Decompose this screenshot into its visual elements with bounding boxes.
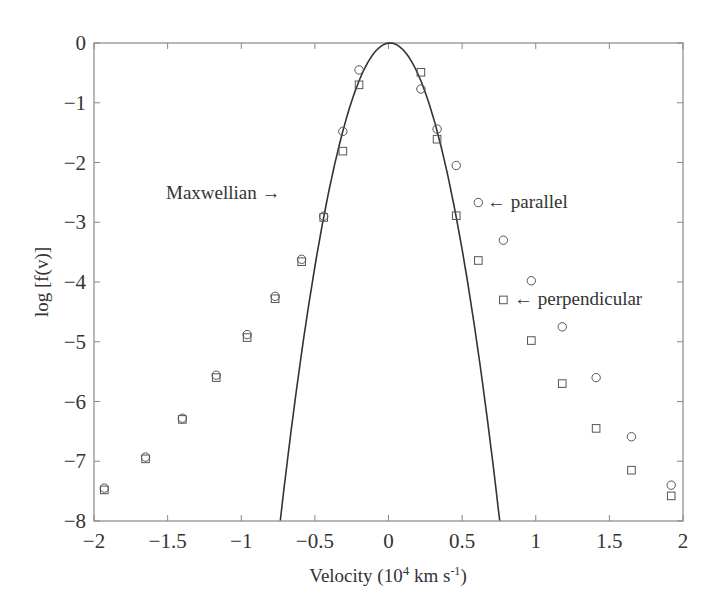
x-tick-label: −2 (83, 529, 105, 553)
x-tick-label: 0.5 (449, 529, 475, 553)
x-tick-label: −1.5 (149, 529, 187, 553)
parallel-marker (297, 255, 305, 263)
x-tick-label: 1 (531, 529, 542, 553)
y-tick-label: −5 (64, 330, 86, 354)
annotation-parallel: ← parallel (487, 191, 568, 212)
perpendicular-marker (558, 380, 566, 388)
perpendicular-marker (475, 257, 483, 265)
maxwellian-curve (280, 43, 499, 521)
perpendicular-marker (212, 374, 220, 382)
y-tick-label: −1 (64, 91, 86, 115)
parallel-marker (212, 371, 220, 379)
perpendicular-marker (667, 492, 675, 500)
y-tick-label: 0 (76, 31, 87, 55)
parallel-marker (243, 330, 251, 338)
perpendicular-marker (271, 295, 279, 303)
parallel-marker (141, 453, 149, 461)
x-tick-label: 2 (678, 529, 689, 553)
annotation-perpendicular: ← perpendicular (514, 288, 643, 309)
data-markers (100, 66, 675, 500)
parallel-marker (627, 433, 635, 441)
axis-ticks (94, 43, 683, 521)
parallel-marker (474, 198, 482, 206)
y-axis-title: log [f(v)] (31, 247, 53, 317)
perpendicular-marker (500, 296, 508, 304)
x-tick-label: −0.5 (296, 529, 334, 553)
annotation-maxwellian: Maxwellian → (166, 182, 281, 203)
parallel-marker (527, 277, 535, 285)
perpendicular-marker (592, 425, 600, 433)
parallel-marker (499, 236, 507, 244)
perpendicular-marker (339, 147, 347, 155)
y-tick-label: −6 (64, 390, 86, 414)
parallel-marker (667, 481, 675, 489)
perpendicular-marker (628, 466, 636, 474)
parallel-marker (271, 292, 279, 300)
y-tick-label: −4 (64, 270, 87, 294)
y-tick-label: −8 (64, 509, 86, 533)
x-tick-label: 0 (383, 529, 394, 553)
parallel-marker (355, 66, 363, 74)
parallel-marker (558, 323, 566, 331)
y-tick-label: −7 (64, 449, 86, 473)
x-axis-title: Velocity (104 km s-1) (309, 563, 466, 587)
x-tick-label: −1 (230, 529, 252, 553)
x-tick-label: 1.5 (596, 529, 622, 553)
perpendicular-marker (528, 337, 536, 345)
velocity-distribution-chart: −2−1.5−1−0.500.511.520−1−2−3−4−5−6−7−8 M… (0, 0, 723, 612)
parallel-marker (100, 484, 108, 492)
parallel-marker (592, 373, 600, 381)
perpendicular-marker (298, 258, 306, 266)
plot-frame (94, 43, 683, 521)
y-tick-label: −2 (64, 151, 86, 175)
parallel-marker (452, 161, 460, 169)
y-tick-label: −3 (64, 210, 86, 234)
